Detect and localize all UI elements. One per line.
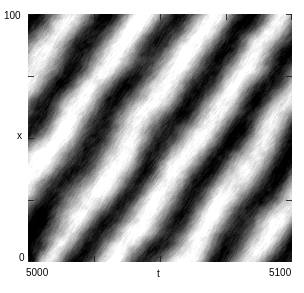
heatmap-image (28, 14, 292, 262)
x-axis-min-label: 5000 (26, 268, 48, 278)
x-axis-max-label: 5100 (269, 268, 291, 278)
x-axis-tick-top (94, 14, 95, 20)
x-axis-tick (160, 256, 161, 262)
x-axis-tick (291, 256, 292, 262)
x-axis-tick (226, 256, 227, 262)
y-axis-title: x (17, 131, 22, 141)
y-axis-tick (28, 200, 34, 201)
y-axis-max-label: 100 (4, 11, 21, 21)
y-axis-tick (28, 138, 34, 139)
y-axis-tick-right (286, 76, 292, 77)
x-axis-tick (94, 256, 95, 262)
y-axis-tick (28, 76, 34, 77)
space-time-density-figure: 100 0 x 5000 5100 t (0, 0, 304, 293)
y-axis-min-label: 0 (19, 253, 25, 263)
x-axis-title: t (157, 269, 160, 279)
heatmap-plot-area (28, 14, 292, 262)
x-axis-tick (28, 256, 29, 262)
y-axis-tick-right (286, 138, 292, 139)
y-axis-tick-right (286, 200, 292, 201)
x-axis-tick-top (291, 14, 292, 20)
x-axis-tick-top (28, 14, 29, 20)
x-axis-tick-top (226, 14, 227, 20)
x-axis-tick-top (160, 14, 161, 20)
